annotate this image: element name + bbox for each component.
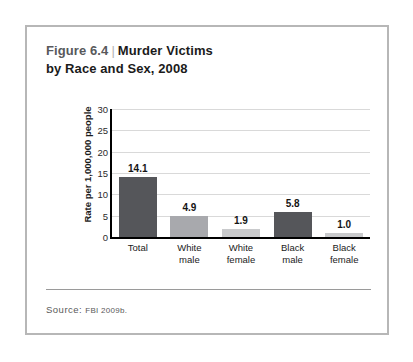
y-axis-tick-label: 30 [86, 104, 108, 115]
bar-group: 1.0 [318, 109, 370, 237]
category-label-line: female [318, 254, 370, 266]
bar [170, 216, 208, 237]
category-label-line: female [215, 254, 267, 266]
bar-value-label: 1.9 [234, 215, 248, 226]
bar-value-label: 1.0 [337, 219, 351, 230]
category-label-line: White [164, 242, 216, 254]
figure-title-main: Murder Victims [118, 43, 213, 58]
bar-group: 4.9 [164, 109, 216, 237]
category-label-line: Total [112, 242, 164, 254]
bar [274, 212, 312, 237]
title-divider-glyph: | [108, 43, 117, 58]
x-axis-category-label: Blackfemale [318, 242, 370, 265]
x-axis-line [110, 237, 370, 239]
plot-area: 14.14.91.95.81.0 [112, 109, 370, 237]
x-axis-category-label: Total [112, 242, 164, 254]
source-label: Source: [46, 304, 82, 315]
plot-inner: 14.14.91.95.81.0 [112, 109, 370, 237]
figure-title-line-2: by Race and Sex, 2008 [46, 59, 366, 77]
category-label-line: Black [318, 242, 370, 254]
y-axis-tick-label: 0 [86, 232, 108, 243]
y-axis-tick-label: 20 [86, 146, 108, 157]
bar-value-label: 5.8 [286, 198, 300, 209]
source-text: FBI 2009b. [82, 306, 127, 315]
figure-number: Figure 6.4 [46, 43, 108, 58]
figure-title-line-1: Figure 6.4|Murder Victims [46, 41, 366, 59]
title-dotted-divider [46, 90, 371, 92]
y-axis-tick-label: 15 [86, 168, 108, 179]
y-axis-line [110, 109, 112, 238]
bar [119, 177, 157, 237]
x-axis-category-labels: TotalWhitemaleWhitefemaleBlackmaleBlackf… [112, 242, 370, 272]
x-axis-category-label: Whitemale [164, 242, 216, 265]
category-label-line: male [164, 254, 216, 266]
category-label-line: White [215, 242, 267, 254]
source-divider [46, 289, 371, 290]
y-axis-tick-labels: 051015202530 [86, 109, 108, 237]
y-axis-tick-label: 10 [86, 189, 108, 200]
bar-group: 14.1 [112, 109, 164, 237]
source-block: Source:FBI 2009b. [46, 299, 127, 317]
bar-group: 1.9 [215, 109, 267, 237]
bar-group: 5.8 [267, 109, 319, 237]
figure-frame: Figure 6.4|Murder Victims by Race and Se… [25, 25, 389, 335]
y-axis-tick-label: 25 [86, 125, 108, 136]
x-axis-category-label: Blackmale [267, 242, 319, 265]
figure-title-block: Figure 6.4|Murder Victims by Race and Se… [46, 41, 366, 77]
category-label-line: male [267, 254, 319, 266]
category-label-line: Black [267, 242, 319, 254]
bar-value-label: 4.9 [182, 202, 196, 213]
bar [222, 229, 260, 237]
chart-region: Rate per 1,000,000 people 051015202530 1… [46, 105, 372, 285]
bar-value-label: 14.1 [128, 163, 147, 174]
figure-title-second: by Race and Sex, 2008 [46, 61, 188, 76]
x-axis-category-label: Whitefemale [215, 242, 267, 265]
y-axis-tick-label: 5 [86, 210, 108, 221]
